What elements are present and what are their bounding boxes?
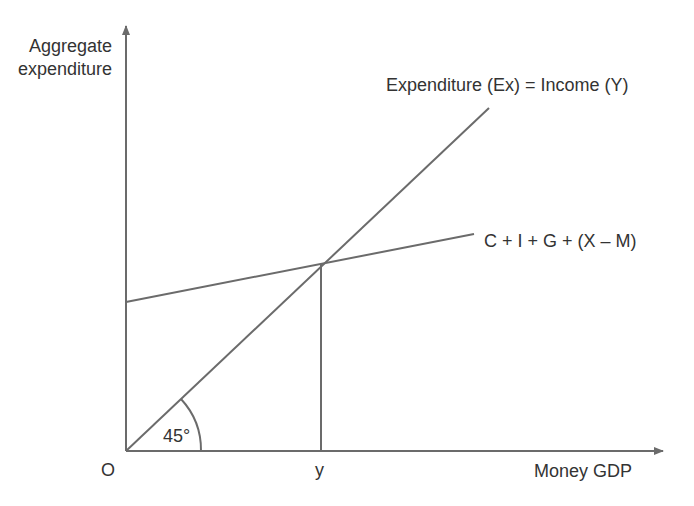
- y-axis-label-line-1: Aggregate: [18, 35, 112, 58]
- aggregate-expenditure-line: [126, 234, 474, 302]
- y-axis-label-line-2: expenditure: [18, 58, 112, 81]
- expenditure-income-line-label: Expenditure (Ex) = Income (Y): [386, 75, 629, 96]
- angle-label: 45°: [163, 426, 190, 447]
- x-axis-label: Money GDP: [534, 461, 632, 482]
- y-axis-label: Aggregate expenditure: [18, 35, 112, 81]
- origin-label: O: [101, 460, 115, 481]
- equilibrium-income-label: y: [315, 460, 324, 481]
- aggregate-expenditure-line-label: C + I + G + (X – M): [484, 231, 637, 252]
